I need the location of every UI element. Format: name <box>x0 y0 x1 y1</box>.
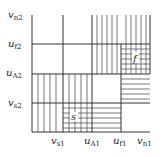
svg-text:uf1: uf1 <box>113 135 127 148</box>
region-label-s: s <box>71 111 76 122</box>
svg-text:uA2: uA2 <box>6 67 22 80</box>
svg-text:vs2: vs2 <box>8 97 22 110</box>
svg-text:vs1: vs1 <box>51 135 65 148</box>
y-axis-labels: vn2 uf2 uA2 vs2 <box>6 9 23 110</box>
svg-text:vn2: vn2 <box>8 9 23 22</box>
svg-text:vn1: vn1 <box>137 135 152 148</box>
region-diagram: s f vn2 uf2 uA2 vs2 vs1 uA1 uf1 vn1 <box>0 0 163 157</box>
horizontal-hatch-right-middle <box>121 79 150 99</box>
svg-text:uA1: uA1 <box>84 135 100 148</box>
x-axis-labels: vs1 uA1 uf1 vn1 <box>51 135 152 148</box>
svg-text:uf2: uf2 <box>8 38 22 51</box>
